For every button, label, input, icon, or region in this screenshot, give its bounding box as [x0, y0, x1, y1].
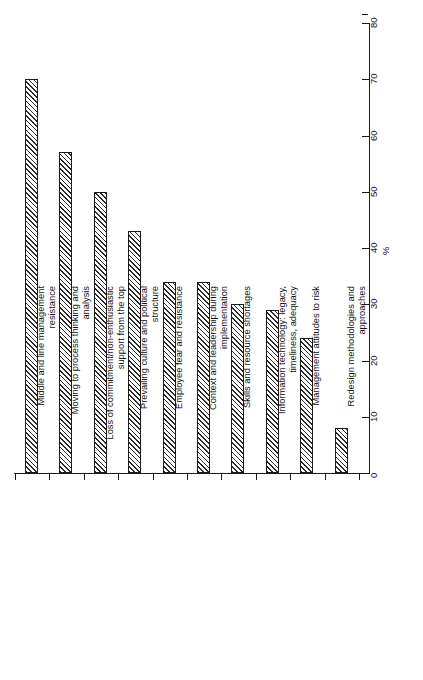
- category-axis-tick: [153, 473, 154, 480]
- category-axis-label: Management attitudes to risk: [311, 286, 322, 481]
- category-axis-tick: [187, 473, 188, 480]
- category-axis-label: Employee fear and resistance: [174, 286, 185, 481]
- category-axis-tick: [84, 473, 85, 480]
- category-axis-label: Middle and line management resistance: [36, 286, 58, 481]
- value-axis-unit-label: %: [381, 247, 391, 255]
- bar-chart-plot: 01020304050607080%Middle and line manage…: [0, 0, 423, 680]
- value-axis-tick-label: 60: [369, 130, 379, 141]
- value-axis-tick-label: 80: [369, 17, 379, 28]
- category-axis-label: Loss of commitment/non-enthusiastic supp…: [105, 286, 127, 481]
- category-axis-tick: [118, 473, 119, 480]
- category-axis-label: Prevailing culture and political structu…: [139, 286, 161, 481]
- category-axis-tick: [49, 473, 50, 480]
- value-axis-tick-label: 40: [369, 242, 379, 253]
- category-axis-tick: [359, 473, 360, 480]
- category-axis-label: Context and leadership during implementa…: [208, 286, 230, 481]
- value-axis-tick-label: 0: [369, 473, 379, 478]
- category-axis-label: Moving to process thinking and analysis: [70, 286, 92, 481]
- category-axis-label: Information technology: legacy, timeline…: [277, 286, 299, 481]
- category-axis-label: Redesign methodologies and approaches: [346, 286, 368, 481]
- category-axis-label: Skills and resource shortages: [242, 286, 253, 481]
- category-axis-tick: [325, 473, 326, 480]
- category-axis-tick: [221, 473, 222, 480]
- chart-page: 01020304050607080%Middle and line manage…: [0, 0, 423, 680]
- category-axis-tick: [15, 473, 16, 480]
- value-axis-tick-label: 50: [369, 186, 379, 197]
- value-axis-tick-label: 30: [369, 299, 379, 310]
- value-axis-tick-label: 20: [369, 355, 379, 366]
- value-axis-cap-tick: [362, 14, 368, 15]
- category-axis-tick: [256, 473, 257, 480]
- value-axis-tick-label: 10: [369, 411, 379, 422]
- category-axis-tick: [290, 473, 291, 480]
- value-axis-tick-label: 70: [369, 74, 379, 85]
